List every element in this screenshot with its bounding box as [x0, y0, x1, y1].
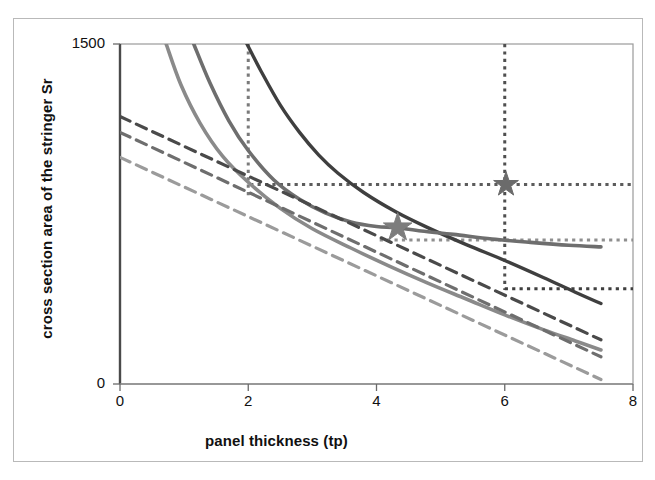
x-axis-title: panel thickness (tp) — [205, 432, 348, 449]
figure-container: panel thickness (tp) cross section area … — [0, 0, 655, 480]
x-tick-label-2: 4 — [357, 392, 397, 409]
plot-svg — [0, 0, 655, 480]
series-dashed-line-dark — [120, 117, 601, 340]
x-tick-label-1: 2 — [228, 392, 268, 409]
series-dashed-line-medium — [120, 132, 601, 356]
x-tick-label-3: 6 — [485, 392, 525, 409]
y-tick-label-1: 1500 — [45, 34, 105, 51]
x-tick-label-0: 0 — [100, 392, 140, 409]
x-tick-label-4: 8 — [613, 392, 653, 409]
y-axis-title: cross section area of the stringer Sr — [38, 59, 55, 359]
y-tick-label-0: 0 — [45, 374, 105, 391]
plot-area — [113, 44, 633, 391]
series-solid-curve-dark — [247, 44, 601, 304]
marker-star-marker-right — [494, 172, 519, 196]
series-solid-curve-light — [166, 44, 601, 350]
